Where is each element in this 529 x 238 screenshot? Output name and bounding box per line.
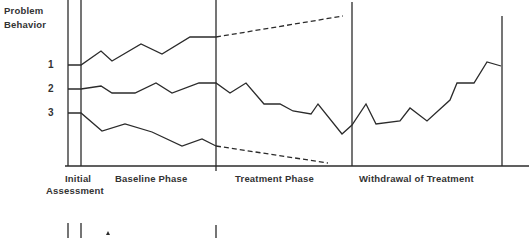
series-line-3: [68, 113, 216, 146]
chart-axes: [65, 0, 529, 238]
single-case-design-chart: [0, 0, 529, 238]
y-axis-title-line2: Behavior: [4, 19, 46, 31]
series-line-2: [68, 62, 501, 134]
phase-label-baseline: Baseline Phase: [115, 173, 188, 185]
series-projection-1: [216, 16, 343, 37]
y-tick-3: 3: [48, 107, 54, 119]
series-projection-3: [216, 146, 328, 163]
y-tick-1: 1: [48, 59, 54, 71]
y-axis-title-line1: Problem: [4, 5, 43, 17]
data-series-group: [68, 16, 501, 163]
series-line-1: [68, 37, 216, 65]
phase-label-treatment: Treatment Phase: [235, 173, 314, 185]
phase-label-withdrawal: Withdrawal of Treatment: [359, 173, 474, 185]
y-tick-2: 2: [48, 83, 54, 95]
lower-panel-arrow-icon: [106, 231, 110, 235]
phase-label-assessment: Assessment: [46, 185, 104, 197]
phase-label-initial: Initial: [65, 173, 91, 185]
